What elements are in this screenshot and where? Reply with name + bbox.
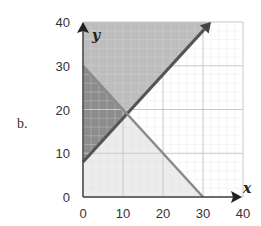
y-tick-label: 30 <box>56 59 70 74</box>
y-tick-label: 10 <box>56 146 70 161</box>
x-tick-label: 20 <box>156 206 170 221</box>
grid <box>83 22 243 197</box>
y-tick-label: 40 <box>56 15 70 30</box>
x-tick-label: 40 <box>236 206 250 221</box>
x-tick-label: 0 <box>79 206 86 221</box>
part-label: b. <box>17 116 28 131</box>
x-tick-labels: 010203040 <box>79 206 250 221</box>
y-tick-label: 0 <box>63 190 70 205</box>
x-tick-label: 10 <box>116 206 130 221</box>
x-axis-label: x <box>242 180 252 196</box>
y-tick-labels: 010203040 <box>56 15 70 205</box>
y-tick-label: 20 <box>56 103 70 118</box>
x-tick-label: 30 <box>196 206 210 221</box>
inequality-graph: b. x y 010203040 010203040 <box>0 0 261 226</box>
y-axis-label: y <box>91 27 101 43</box>
